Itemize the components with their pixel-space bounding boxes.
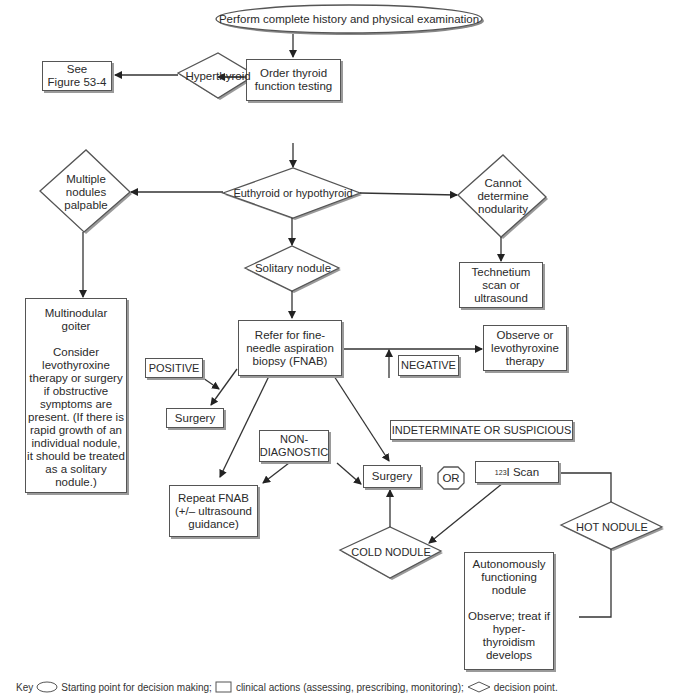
negative-label: NEGATIVE [398, 355, 459, 376]
multinodular-goiter-box: Multinodular goiter Consider levothyroxi… [25, 298, 127, 493]
surgery-box-1: Surgery [166, 408, 224, 428]
legend: Key Starting point for decision making; … [16, 681, 561, 693]
surgery-box-2: Surgery [363, 465, 421, 488]
legend-oval-desc: Starting point for decision making; [61, 682, 212, 693]
or-label: OR [438, 471, 464, 485]
legend-rect-desc: clinical actions (assessing, prescribing… [236, 682, 464, 693]
indeterminate-suspicious-label: INDETERMINATE OR SUSPICIOUS [390, 420, 573, 440]
order-thyroid-function-testing-box: Order thyroid function testing [246, 59, 341, 101]
flowchart: Perform complete history and physical ex… [0, 0, 687, 700]
see-figure-box: See Figure 53-4 [42, 61, 112, 91]
observe-levothyroxine-box: Observe or levothyroxine therapy [483, 325, 567, 371]
oval-icon [36, 681, 58, 693]
euthyroid-label: Euthyroid or hypothyroid [228, 186, 358, 200]
nondiagnostic-label: NON- DIAGNOSTIC [259, 430, 329, 462]
i123-scan-box: 123I Scan [475, 461, 559, 483]
hot-nodule-label: HOT NODULE [569, 520, 655, 534]
rectangle-icon [215, 681, 233, 693]
legend-diamond-desc: decision point. [494, 682, 558, 693]
solitary-nodule-label: Solitary nodule [252, 261, 334, 275]
start-label: Perform complete history and physical ex… [216, 7, 482, 31]
i123-scan-label: I Scan [507, 466, 540, 479]
diamond-icon [467, 681, 491, 693]
fnab-box: Refer for fine- needle aspiration biopsy… [238, 320, 342, 376]
positive-label: POSITIVE [145, 358, 203, 378]
i123-superscript: 123 [495, 466, 507, 479]
legend-title: Key [16, 682, 33, 693]
technetium-box: Technetium scan or ultrasound [459, 262, 543, 308]
cannot-determine-label: Cannot determine nodularity [467, 175, 539, 217]
cold-nodule-label: COLD NODULE [348, 545, 434, 559]
autonomous-nodule-box: Autonomously functioning nodule Observe;… [464, 552, 554, 670]
repeat-fnab-box: Repeat FNAB (+/– ultrasound guidance) [169, 485, 258, 537]
hyperthyroid-label: Hyperthyroid [180, 68, 256, 84]
multiple-nodules-label: Multiple nodules palpable [52, 171, 120, 213]
